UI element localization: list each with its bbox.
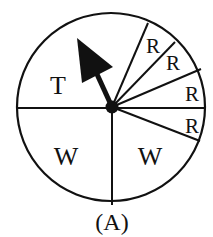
diagram-caption: (A) <box>95 209 128 235</box>
sector-label-r-1: R <box>146 34 160 58</box>
sector-label-t: T <box>50 71 66 100</box>
sector-label-w-left: W <box>54 142 79 171</box>
spinner-arrow-icon <box>77 38 113 83</box>
sector-label-r-4: R <box>185 114 199 138</box>
sector-label-r-2: R <box>166 51 180 75</box>
spinner-diagram: T W W R R R R (A) <box>0 0 213 237</box>
sector-label-r-3: R <box>185 82 199 106</box>
spinner-hub <box>106 101 119 114</box>
sector-label-w-right: W <box>138 142 163 171</box>
